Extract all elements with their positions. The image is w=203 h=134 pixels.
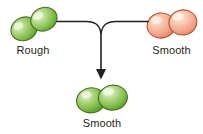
bacteria-smooth-bottom: [75, 82, 129, 116]
diagram-canvas: Rough: [0, 0, 203, 134]
label-smooth-bottom: Smooth: [70, 117, 134, 129]
